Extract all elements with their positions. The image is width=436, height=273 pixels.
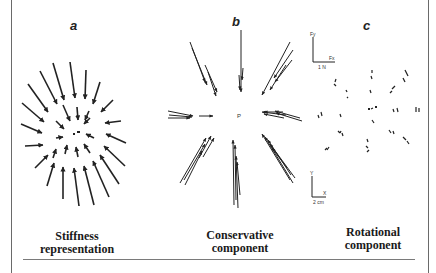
panel-a-center-dots bbox=[73, 131, 80, 135]
force-scale-fx-label: Fx bbox=[329, 55, 335, 61]
panel-c-caption-line2: component bbox=[313, 239, 433, 252]
force-scale-fy-label: Fy bbox=[310, 31, 316, 37]
panel-a-caption-line2: representation bbox=[17, 243, 137, 256]
panel-b-caption: Conservative component bbox=[180, 229, 300, 255]
position-scale-unit-label: 2 cm bbox=[313, 199, 324, 205]
position-scale-x-label: X bbox=[323, 190, 327, 196]
position-scale-y-label: Y bbox=[310, 170, 314, 176]
panel-b-center-marker: P bbox=[237, 113, 241, 119]
panel-b-conservative-field bbox=[168, 30, 302, 208]
panel-c-rotational-field bbox=[318, 70, 419, 152]
panel-a-caption: Stiffness representation bbox=[17, 230, 137, 256]
panel-c-caption: Rotational component bbox=[313, 226, 433, 252]
force-scale-unit-label: 1 N bbox=[318, 64, 326, 70]
panel-b-caption-line2: component bbox=[180, 242, 300, 255]
